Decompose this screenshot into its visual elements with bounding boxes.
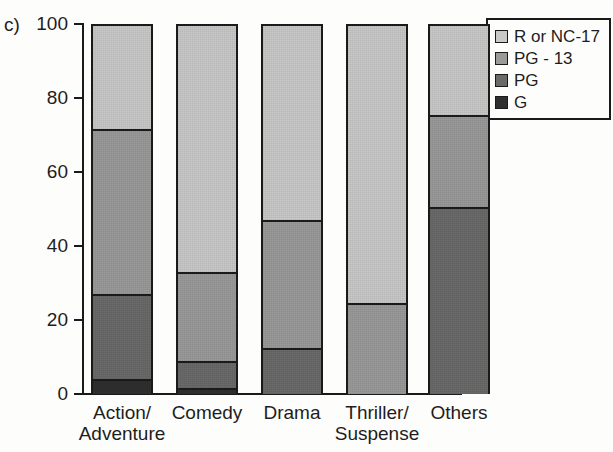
x-axis-label-line: Others: [389, 402, 529, 423]
bar-segment-r-or-nc-17[interactable]: [430, 24, 488, 115]
panel-label: c): [4, 14, 20, 36]
y-tick-label: 0: [20, 384, 68, 403]
y-tick-label: 80: [20, 88, 68, 107]
legend-label: R or NC-17: [514, 28, 600, 45]
legend: R or NC-17PG - 13PGG: [486, 18, 611, 120]
legend-swatch-icon: [495, 74, 508, 87]
bar-segment-r-or-nc-17[interactable]: [263, 24, 321, 220]
y-tick-mark: [74, 171, 83, 173]
y-tick-mark: [74, 393, 83, 395]
legend-item-r-or-nc-17[interactable]: R or NC-17: [495, 25, 603, 47]
legend-swatch-icon: [495, 52, 508, 65]
legend-swatch-icon: [495, 96, 508, 109]
x-axis-label: Others: [389, 402, 529, 423]
bar-action--adventure[interactable]: [91, 24, 153, 394]
bar-segment-g[interactable]: [178, 388, 236, 394]
legend-label: G: [514, 94, 527, 111]
bar-segment-pg---13[interactable]: [93, 129, 151, 294]
bar-segment-pg---13[interactable]: [263, 220, 321, 348]
bar-segment-g[interactable]: [93, 379, 151, 394]
y-tick-label: 100: [20, 14, 68, 33]
legend-label: PG: [514, 72, 539, 89]
bar-segment-pg---13[interactable]: [348, 303, 406, 394]
bar-comedy[interactable]: [176, 24, 238, 394]
legend-swatch-icon: [495, 30, 508, 43]
bar-others[interactable]: [428, 24, 490, 394]
bar-segment-pg[interactable]: [263, 348, 321, 394]
y-tick-label: 60: [20, 162, 68, 181]
y-tick-label: 20: [20, 310, 68, 329]
legend-item-pg---13[interactable]: PG - 13: [495, 47, 603, 69]
bar-segment-pg[interactable]: [93, 294, 151, 379]
y-tick-mark: [74, 245, 83, 247]
bar-segment-pg[interactable]: [430, 207, 488, 394]
legend-label: PG - 13: [514, 50, 573, 67]
y-tick-mark: [74, 319, 83, 321]
y-tick-label: 40: [20, 236, 68, 255]
figure-panel-c: c) 020406080100 Action/AdventureComedyDr…: [0, 0, 613, 452]
legend-item-pg[interactable]: PG: [495, 69, 603, 91]
bar-segment-pg[interactable]: [178, 361, 236, 389]
y-tick-mark: [74, 23, 83, 25]
bar-drama[interactable]: [261, 24, 323, 394]
bar-thriller--suspense[interactable]: [346, 24, 408, 394]
x-axis-label-line: Suspense: [307, 423, 447, 444]
y-tick-mark: [74, 97, 83, 99]
bar-segment-pg---13[interactable]: [178, 272, 236, 361]
x-axis-label-line: Adventure: [52, 423, 192, 444]
bar-segment-r-or-nc-17[interactable]: [93, 24, 151, 129]
bar-segment-r-or-nc-17[interactable]: [348, 24, 406, 303]
legend-item-g[interactable]: G: [495, 91, 603, 113]
bar-segment-pg---13[interactable]: [430, 115, 488, 208]
bar-segment-r-or-nc-17[interactable]: [178, 24, 236, 272]
